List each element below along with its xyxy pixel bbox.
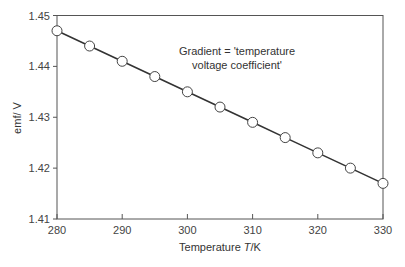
x-tick-label: 320 [309,224,327,236]
data-point-marker [280,133,290,143]
data-point-marker [182,87,192,97]
annotation-line-2: voltage coefficient' [192,59,282,71]
y-tick-label: 1.41 [29,213,50,225]
data-point-marker [150,72,160,82]
y-tick-label: 1.45 [29,10,50,22]
data-point-marker [85,41,95,51]
x-tick-label: 290 [113,224,131,236]
annotation-line-1: Gradient = 'temperature [179,45,295,57]
y-tick-label: 1.44 [29,60,50,72]
data-point-marker [248,117,258,127]
x-axis-label: Temperature T/K [179,241,262,253]
data-point-marker [345,163,355,173]
y-axis-label: emf/ V [11,101,23,133]
x-tick-label: 300 [178,224,196,236]
chart: 1.411.421.431.441.45 280290300310320330 … [0,0,405,267]
data-point-marker [52,26,62,36]
x-tick-label: 310 [243,224,261,236]
data-point-marker [117,56,127,66]
data-point-marker [215,102,225,112]
x-tick-label: 280 [48,224,66,236]
y-tick-label: 1.43 [29,111,50,123]
x-tick-label: 330 [374,224,392,236]
data-point-marker [378,178,388,188]
x-axis: 280290300310320330 [48,214,392,236]
y-tick-label: 1.42 [29,162,50,174]
y-axis: 1.411.421.431.441.45 [29,10,57,226]
data-point-marker [313,148,323,158]
